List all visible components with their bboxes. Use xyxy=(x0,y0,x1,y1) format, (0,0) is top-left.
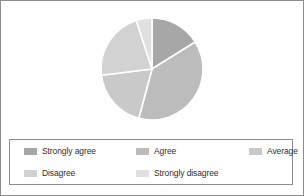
pie-chart xyxy=(1,5,303,133)
legend-label-agree: Agree xyxy=(154,147,176,156)
pie-slices-group xyxy=(101,18,203,120)
legend-item-strongly-agree[interactable]: Strongly agree xyxy=(24,140,136,162)
legend-swatch-average xyxy=(249,148,262,155)
legend-swatch-disagree xyxy=(24,170,37,177)
legend-swatch-strongly-disagree xyxy=(136,170,149,177)
legend-grid: Strongly agree Agree Average Disagree St… xyxy=(10,140,292,184)
pie-chart-area xyxy=(1,5,303,133)
legend-item-disagree[interactable]: Disagree xyxy=(24,162,136,184)
legend-swatch-strongly-agree xyxy=(24,148,37,155)
legend-label-average: Average xyxy=(267,147,298,156)
legend-label-strongly-disagree: Strongly disagree xyxy=(154,169,218,178)
legend-label-strongly-agree: Strongly agree xyxy=(42,147,96,156)
figure-container: Strongly agree Agree Average Disagree St… xyxy=(0,0,304,196)
legend-item-average[interactable]: Average xyxy=(249,140,304,162)
legend-box: Strongly agree Agree Average Disagree St… xyxy=(9,139,293,185)
legend-item-agree[interactable]: Agree xyxy=(136,140,249,162)
legend-label-disagree: Disagree xyxy=(42,169,75,178)
legend-swatch-agree xyxy=(136,148,149,155)
legend-item-strongly-disagree[interactable]: Strongly disagree xyxy=(136,162,249,184)
